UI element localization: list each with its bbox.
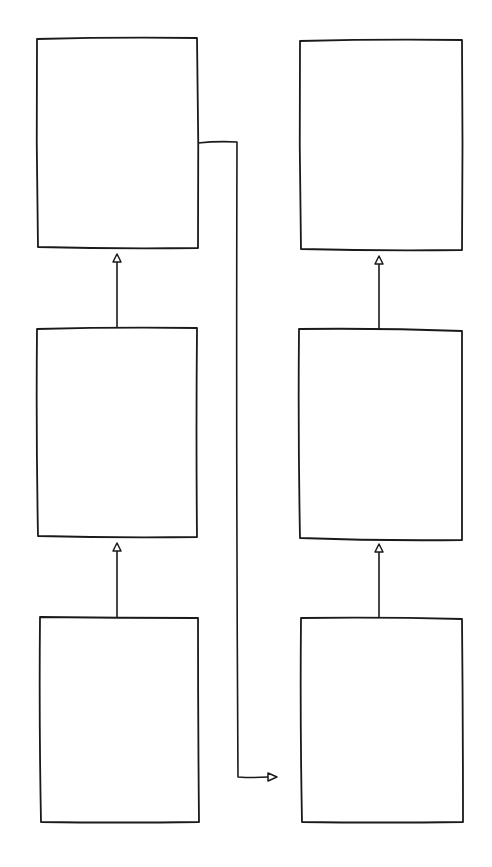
diagram-canvas	[0, 0, 492, 867]
arrowhead-up-icon	[375, 256, 383, 264]
box-left-bottom	[40, 617, 199, 823]
box-right-top	[300, 40, 463, 251]
box-right-bottom	[301, 618, 463, 823]
box-left-top	[37, 38, 199, 249]
arrowhead-right-icon	[268, 773, 277, 781]
box-left-middle	[37, 328, 197, 538]
arrowhead-up-icon	[113, 254, 121, 262]
arrowhead-up-icon	[113, 543, 121, 551]
box-right-middle	[299, 329, 462, 541]
arrowhead-up-icon	[375, 544, 383, 552]
edge-left-top-to-right-bottom	[198, 142, 268, 778]
